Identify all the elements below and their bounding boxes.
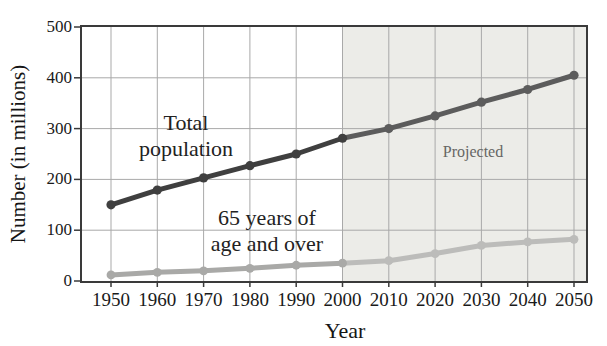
x-tick-label: 2000 [324, 289, 362, 311]
data-point [384, 256, 393, 265]
x-tick-label: 1970 [185, 289, 223, 311]
x-tick-label: 1960 [138, 289, 176, 311]
y-tick-label: 500 [0, 16, 72, 38]
x-axis-label: Year [325, 318, 366, 344]
y-tick-label: 0 [0, 270, 72, 292]
total-population-label: Total population [139, 110, 233, 162]
data-point [523, 237, 532, 246]
data-point [292, 149, 301, 158]
annotation-line: Total [139, 110, 233, 136]
data-point [570, 235, 579, 244]
series-line-historical [111, 263, 343, 275]
x-tick-label: 2030 [462, 289, 500, 311]
population-chart-figure: Number (in millions) Total population 65… [0, 0, 607, 346]
x-tick-label: 2020 [416, 289, 454, 311]
y-axis-label: Number (in millions) [6, 65, 31, 243]
data-point [431, 249, 440, 258]
data-point [523, 85, 532, 94]
seniors-label: 65 years of age and over [211, 205, 323, 257]
data-point [107, 271, 116, 280]
data-point [153, 185, 162, 194]
data-point [106, 200, 115, 209]
data-point [246, 264, 255, 273]
annotation-line: age and over [211, 231, 323, 257]
data-point [431, 111, 440, 120]
x-tick-label: 1990 [277, 289, 315, 311]
data-point [153, 268, 162, 277]
annotation-line: 65 years of [211, 205, 323, 231]
annotation-line: population [139, 136, 233, 162]
data-point [569, 71, 578, 80]
data-point [199, 173, 208, 182]
y-tick-label: 300 [0, 118, 72, 140]
data-point [199, 266, 208, 275]
y-tick-label: 200 [0, 168, 72, 190]
x-tick-label: 1950 [92, 289, 130, 311]
x-tick-label: 2040 [509, 289, 547, 311]
data-point [477, 241, 486, 250]
data-point [245, 161, 254, 170]
data-point [338, 134, 347, 143]
data-point [338, 259, 347, 268]
data-point [477, 98, 486, 107]
y-tick-label: 100 [0, 219, 72, 241]
data-point [384, 124, 393, 133]
x-tick-label: 2050 [555, 289, 593, 311]
plot-area: Total population 65 years of age and ove… [80, 25, 588, 283]
data-point [292, 261, 301, 270]
x-tick-label: 1980 [231, 289, 269, 311]
x-tick-label: 2010 [370, 289, 408, 311]
projected-label: Projected [443, 143, 503, 161]
y-tick-label: 400 [0, 67, 72, 89]
